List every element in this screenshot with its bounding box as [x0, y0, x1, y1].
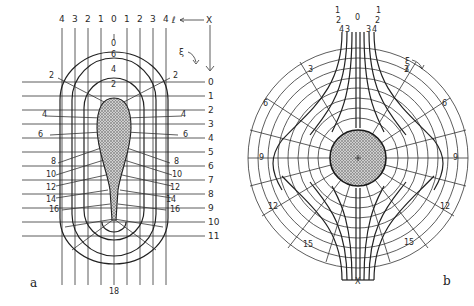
svg-text:10: 10	[46, 170, 56, 179]
svg-text:2: 2	[375, 16, 380, 25]
panel-b-top-labels: 1 0 1 2 2 4 3 3 4	[335, 6, 381, 34]
panel-a: 4 3 2 1 0 1 2 3 4 ℓ X ξ 0 6 4 2 0 1 2 3 …	[22, 14, 220, 296]
svg-text:6: 6	[183, 130, 188, 139]
svg-text:3: 3	[345, 25, 350, 34]
panel-b-bottom-marker: X	[355, 277, 361, 286]
svg-text:4: 4	[163, 14, 169, 24]
svg-text:3: 3	[308, 65, 313, 74]
svg-text:3: 3	[366, 25, 371, 34]
svg-text:1: 1	[376, 6, 381, 15]
svg-text:3: 3	[72, 14, 78, 24]
panel-a-x-marker: X	[206, 15, 212, 25]
svg-text:15: 15	[303, 240, 313, 249]
svg-text:5: 5	[208, 147, 214, 157]
panel-a-row-labels: 0 1 2 3 4 5 6 7 8 9 10 11	[208, 77, 220, 241]
svg-text:14: 14	[46, 195, 56, 204]
svg-text:9: 9	[259, 153, 264, 162]
panel-a-column-labels: 4 3 2 1 0 1 2 3 4	[59, 14, 169, 24]
svg-text:15: 15	[404, 238, 414, 247]
svg-text:4: 4	[208, 133, 214, 143]
svg-text:4: 4	[181, 110, 186, 119]
svg-text:1: 1	[208, 91, 214, 101]
panel-b-label: b	[443, 274, 451, 288]
panel-a-zeta-symbol: ℓ	[171, 15, 176, 25]
svg-text:6: 6	[442, 99, 447, 108]
svg-text:4: 4	[59, 14, 65, 24]
contour-label-4: 4	[111, 65, 116, 74]
svg-text:2: 2	[336, 16, 341, 25]
svg-text:11: 11	[208, 231, 219, 241]
panel-a-xi-symbol: ξ	[179, 47, 184, 57]
panel-a-xi-arrow-icon	[188, 52, 199, 64]
svg-text:12: 12	[170, 183, 180, 192]
svg-text:2: 2	[208, 105, 214, 115]
contour-label-2: 2	[111, 80, 116, 89]
svg-text:12: 12	[440, 202, 450, 211]
svg-text:6: 6	[263, 99, 268, 108]
svg-text:10: 10	[172, 170, 182, 179]
svg-text:14: 14	[166, 195, 176, 204]
panel-b-xi-arrow-icon	[412, 60, 424, 69]
svg-text:3: 3	[208, 119, 214, 129]
svg-text:8: 8	[174, 157, 179, 166]
panel-a-center-top-label: 0	[111, 39, 116, 48]
svg-text:4: 4	[339, 25, 344, 34]
svg-text:12: 12	[46, 183, 56, 192]
svg-text:3: 3	[150, 14, 156, 24]
svg-text:9: 9	[453, 153, 458, 162]
svg-text:2: 2	[137, 14, 143, 24]
svg-text:4: 4	[42, 110, 47, 119]
panel-a-body	[97, 98, 131, 220]
svg-text:1: 1	[124, 14, 130, 24]
svg-text:2: 2	[85, 14, 91, 24]
svg-text:0: 0	[355, 13, 360, 22]
svg-text:4: 4	[372, 25, 377, 34]
svg-text:0: 0	[208, 77, 214, 87]
svg-text:0: 0	[111, 14, 117, 24]
svg-text:9: 9	[208, 203, 214, 213]
svg-text:8: 8	[208, 189, 214, 199]
svg-text:1: 1	[98, 14, 104, 24]
svg-text:7: 7	[208, 175, 214, 185]
panel-a-side-labels-right: 2 4 6 8 10 12 14 16	[166, 71, 188, 214]
svg-text:8: 8	[51, 157, 56, 166]
svg-text:2: 2	[49, 71, 54, 80]
svg-text:2: 2	[173, 71, 178, 80]
panel-a-bottom-label: 18	[109, 287, 119, 296]
svg-text:6: 6	[38, 130, 43, 139]
svg-text:16: 16	[49, 205, 59, 214]
svg-text:16: 16	[170, 205, 180, 214]
panel-a-side-labels-left: 2 4 6 8 10 12 14 16	[38, 71, 59, 214]
panel-b: 1 0 1 2 2 4 3 3 4 ξ ℓ 3 3 6 6 9 9 12 12 …	[248, 6, 468, 288]
svg-text:3: 3	[404, 65, 409, 74]
svg-text:10: 10	[208, 217, 220, 227]
svg-text:6: 6	[208, 161, 214, 171]
figure-canvas: 4 3 2 1 0 1 2 3 4 ℓ X ξ 0 6 4 2 0 1 2 3 …	[0, 0, 474, 306]
svg-text:12: 12	[268, 202, 278, 211]
panel-a-label: a	[30, 276, 37, 290]
contour-label-6: 6	[111, 50, 116, 59]
svg-text:1: 1	[335, 6, 340, 15]
